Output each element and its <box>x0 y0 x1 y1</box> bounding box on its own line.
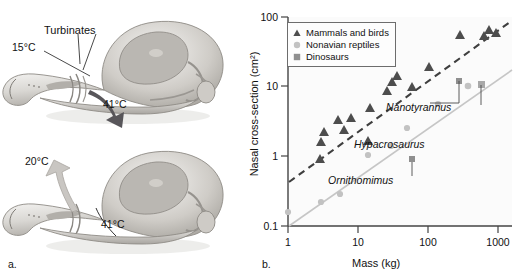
inhaled-air-leader-line <box>44 51 90 76</box>
figure-container: Turbinates 15°C 41°C <box>0 0 517 280</box>
panel-b-chart: 100 10 1 0.1 1 10 100 1000 Nasal cross-s… <box>234 0 517 280</box>
x-tick-label-10: 10 <box>343 236 373 248</box>
skull-illustration-exhalation: 20°C 41°C <box>0 140 234 272</box>
reptile-point <box>404 125 410 131</box>
annotation-nanotyrannus: Nanotyrannus <box>386 101 451 113</box>
legend-item-dinosaurs: Dinosaurs <box>292 51 389 62</box>
x-tick-label-1000: 1000 <box>483 236 513 248</box>
legend-item-nonavian-reptiles: Nonavian reptiles <box>292 39 389 50</box>
orbit-highlight <box>149 179 163 187</box>
x-tick-label-100: 100 <box>413 236 443 248</box>
reptile-point <box>318 199 324 205</box>
square-marker <box>292 53 302 61</box>
reptile-point <box>285 209 291 215</box>
exhalation-airflow-arrow <box>46 160 78 212</box>
reptile-point <box>365 152 371 158</box>
chart-legend: Mammals and birds Nonavian reptiles Dino… <box>287 22 396 67</box>
body-temperature-label-top: 41°C <box>103 99 126 111</box>
annotation-ornithomimus: Ornithomimus <box>328 174 393 186</box>
exhaled-air-temperature-label: 20°C <box>25 156 48 168</box>
inhaled-air-temperature-label: 15°C <box>12 42 35 54</box>
legend-label-nonavian-reptiles: Nonavian reptiles <box>306 40 379 50</box>
skull-illustration-inhalation: Turbinates 15°C 41°C <box>0 4 234 136</box>
orbit-highlight <box>149 49 163 57</box>
occipital-opening <box>197 81 215 103</box>
beak-pore-1 <box>28 214 30 216</box>
beak-pore-1 <box>28 84 30 86</box>
dinosaur-point-nanotyrannus <box>478 81 485 88</box>
panel-b-letter: b. <box>262 258 271 270</box>
beak-pore-2 <box>33 215 35 217</box>
body-temperature-label-bottom: 41°C <box>101 219 124 231</box>
turbinates-leader-line-1 <box>78 34 80 64</box>
dinosaur-point-ornithomimus <box>409 156 415 162</box>
turbinates-label: Turbinates <box>44 24 96 36</box>
bird-skull-top-svg <box>0 4 234 136</box>
x-tick-label-1: 1 <box>273 236 303 248</box>
turbinate-scroll-2 <box>76 74 80 104</box>
beak-pore-2 <box>33 85 35 87</box>
legend-item-mammals-and-birds: Mammals and birds <box>292 27 389 38</box>
panel-a-illustrations: Turbinates 15°C 41°C <box>0 0 234 280</box>
triangle-marker <box>292 29 302 37</box>
occipital-opening <box>197 211 215 233</box>
reptile-point <box>337 191 343 197</box>
reptile-point <box>465 83 472 90</box>
beak-pore-3 <box>38 86 40 88</box>
turbinate-scroll-3 <box>83 76 86 102</box>
y-tick-label-100: 100 <box>238 11 278 23</box>
legend-label-mammals-and-birds: Mammals and birds <box>306 28 389 38</box>
panel-a-letter: a. <box>8 258 17 270</box>
annotation-hypacrosaurus: Hypacrosaurus <box>354 138 425 150</box>
beak-pore-3 <box>38 216 40 218</box>
y-tick-label-0.1: 0.1 <box>238 220 278 232</box>
x-axis-title: Mass (kg) <box>352 257 400 269</box>
circle-marker <box>292 41 302 49</box>
y-axis-title: Nasal cross-section (cm²) <box>248 34 260 194</box>
turbinates-leader-line-2 <box>83 34 96 70</box>
legend-label-dinosaurs: Dinosaurs <box>306 52 349 62</box>
